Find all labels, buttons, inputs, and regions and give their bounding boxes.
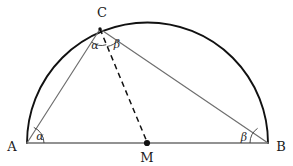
angle-label-beta-at-C: β: [114, 39, 120, 50]
vertex-label-A: A: [7, 140, 16, 153]
segment-side-AC: [27, 29, 100, 143]
vertex-label-M: M: [140, 151, 153, 164]
angle-label-alpha-at-C: α: [91, 40, 98, 51]
vertex-label-C: C: [97, 6, 107, 19]
geometry-figure: A B C M α α β β: [0, 0, 293, 166]
angle-label-beta-at-B: β: [241, 132, 247, 143]
angle-label-alpha-at-A: α: [36, 131, 43, 142]
vertex-label-B: B: [276, 140, 286, 153]
segment-side-CB: [100, 29, 268, 143]
segment-median-CM: [100, 29, 147, 142]
vertex-dot-C: [98, 27, 101, 30]
semicircle-arc: [27, 23, 268, 143]
vertex-dot-M: [144, 140, 150, 146]
geometry-canvas: [0, 0, 293, 166]
